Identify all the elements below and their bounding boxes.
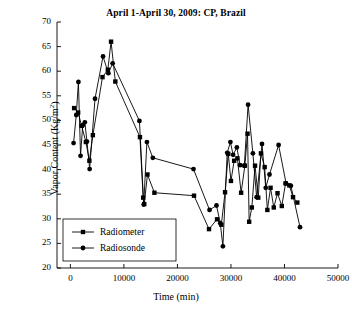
data-point-radiometer (268, 186, 272, 190)
data-point-radiosonde (207, 208, 212, 213)
data-point-radiosonde (231, 152, 236, 157)
data-point-radiosonde (191, 167, 196, 172)
data-point-radiosonde (284, 181, 289, 186)
data-point-radiosonde (254, 195, 259, 200)
legend-marker-radiosonde (81, 246, 86, 251)
data-point-radiometer (215, 217, 219, 221)
data-point-radiometer (192, 193, 196, 197)
data-point-radiosonde (298, 225, 303, 230)
data-point-radiometer (100, 75, 104, 79)
data-point-radiometer (295, 200, 299, 204)
x-axis-ticks (70, 264, 338, 268)
data-point-radiometer (250, 205, 254, 209)
data-point-radiometer (145, 172, 149, 176)
data-point-radiosonde (110, 61, 115, 66)
data-point-radiosonde (145, 140, 150, 145)
legend-label-radiosonde: Radiosonde (100, 243, 145, 253)
data-point-radiometer (113, 79, 117, 83)
legend-label-radiometer: Radiometer (100, 227, 145, 237)
data-point-radiometer (152, 191, 156, 195)
data-point-radiosonde (76, 80, 81, 85)
chart-figure: April 1-April 30, 2009: CP, Brazil Vapor… (0, 0, 352, 314)
data-point-radiometer (229, 179, 233, 183)
data-point-radiometer (91, 133, 95, 137)
data-point-radiometer (239, 191, 243, 195)
data-point-radiosonde (263, 185, 268, 190)
data-point-radiometer (272, 205, 276, 209)
data-point-radiosonde (218, 221, 223, 226)
data-point-radiometer (265, 208, 269, 212)
data-point-radiosonde (78, 153, 83, 158)
data-point-radiosonde (242, 163, 247, 168)
legend-box (63, 219, 176, 261)
data-point-radiosonde (141, 202, 146, 207)
data-point-radiosonde (260, 142, 265, 147)
data-point-radiometer (275, 191, 279, 195)
plot-area (0, 0, 352, 314)
data-point-radiometer (109, 39, 113, 43)
data-point-radiometer (247, 220, 251, 224)
data-point-radiosonde (267, 172, 272, 177)
data-point-radiosonde (82, 120, 87, 125)
data-point-radiometer (280, 204, 284, 208)
legend: RadiometerRadiosonde (62, 218, 182, 264)
data-point-radiosonde (106, 71, 111, 76)
data-point-radiosonde (101, 54, 106, 59)
data-point-radiometer (72, 106, 76, 110)
legend-marker-radiometer (81, 230, 85, 234)
data-point-radiosonde (225, 150, 230, 155)
data-point-radiometer (207, 227, 211, 231)
data-point-radiosonde (74, 113, 79, 118)
data-point-radiosonde (150, 155, 155, 160)
data-point-radiosonde (71, 141, 76, 146)
data-point-radiosonde (87, 167, 92, 172)
data-point-radiosonde (85, 139, 90, 144)
y-axis-ticks (57, 22, 61, 268)
data-point-radiosonde (276, 143, 281, 148)
data-point-radiosonde (221, 244, 226, 249)
data-point-radiosonde (214, 203, 219, 208)
data-point-radiosonde (246, 102, 251, 107)
data-point-radiosonde (289, 183, 294, 188)
data-point-radiosonde (251, 151, 256, 156)
data-point-radiosonde (93, 96, 98, 101)
data-point-radiometer (262, 165, 266, 169)
data-point-radiosonde (234, 145, 239, 150)
data-point-radiosonde (137, 118, 142, 123)
data-point-radiosonde (228, 140, 233, 145)
data-point-radiosonde (238, 163, 243, 168)
series-radiometer (72, 39, 300, 231)
